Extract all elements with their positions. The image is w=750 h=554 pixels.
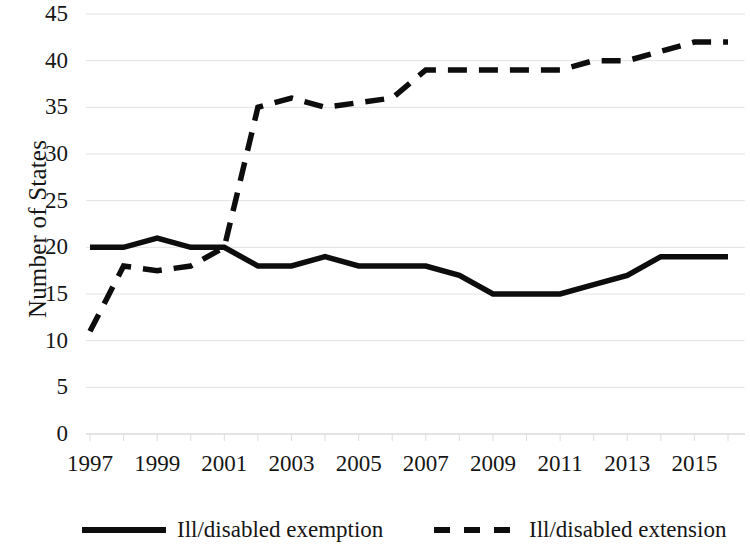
y-tick-label: 40 <box>22 49 68 72</box>
series-lines <box>90 42 728 331</box>
y-tick-label: 0 <box>22 422 68 445</box>
legend-item-ill-disabled-exemption: Ill/disabled exemption <box>80 514 383 546</box>
line-chart: Number of States 051015202530354045 1997… <box>0 0 750 554</box>
y-tick-label: 10 <box>22 329 68 352</box>
legend-item-ill-disabled-extension: Ill/disabled extension <box>432 514 726 546</box>
legend-label: Ill/disabled extension <box>529 517 726 543</box>
y-tick-label: 35 <box>22 95 68 118</box>
x-axis-ticks <box>90 434 728 441</box>
y-axis-title: Number of States <box>24 99 52 359</box>
y-tick-label: 20 <box>22 235 68 258</box>
y-tick-label: 15 <box>22 282 68 305</box>
legend-solid-line-icon <box>80 520 168 540</box>
x-tick-label: 2015 <box>654 452 734 475</box>
legend-dashed-line-icon <box>432 520 520 540</box>
y-tick-label: 45 <box>22 2 68 25</box>
chart-legend: Ill/disabled exemption Ill/disabled exte… <box>0 512 750 554</box>
y-tick-label: 5 <box>22 375 68 398</box>
legend-label: Ill/disabled exemption <box>177 517 383 543</box>
gridlines <box>86 14 745 434</box>
series-line-1 <box>90 42 728 331</box>
y-tick-label: 25 <box>22 189 68 212</box>
y-tick-label: 30 <box>22 142 68 165</box>
